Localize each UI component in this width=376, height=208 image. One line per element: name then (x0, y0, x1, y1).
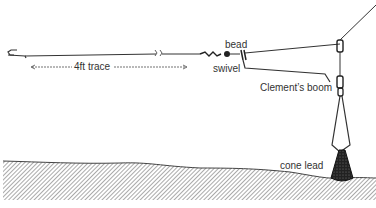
bead-label: bead (225, 40, 247, 50)
rig-drawing (0, 0, 376, 208)
trace-line (25, 54, 200, 56)
swivel-label: swivel (213, 64, 240, 74)
fishing-rig-diagram: 4ft trace bead swivel Clement’s boom con… (0, 0, 376, 208)
hook-icon (8, 50, 17, 55)
swivel-icon (200, 52, 221, 56)
cone-lead-icon (331, 150, 353, 181)
lead-label: cone lead (280, 161, 323, 171)
bead-icon (224, 51, 230, 57)
boom-label: Clement’s boom (260, 83, 332, 93)
clements-boom (241, 50, 246, 60)
trace-label: 4ft trace (74, 62, 110, 72)
